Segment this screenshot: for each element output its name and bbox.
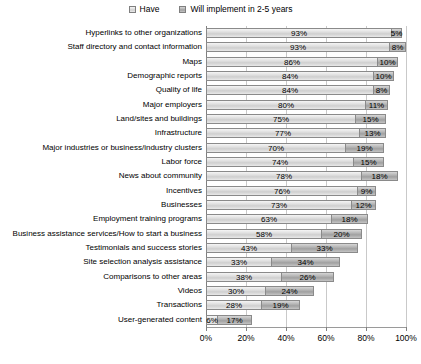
will-implement-value-label: 20% [333, 229, 349, 238]
chart-row: Transactions28%19% [0, 298, 421, 312]
category-label: Business assistance services/How to star… [0, 229, 206, 239]
will-implement-bar-segment: 15% [354, 157, 384, 167]
legend-label-have: Have [140, 4, 160, 14]
have-bar-segment: 84% [206, 85, 374, 95]
category-label: Major industries or business/industry cl… [0, 143, 206, 153]
have-value-label: 30% [228, 287, 244, 296]
bar-rows: Hyperlinks to other organizations93%5%St… [0, 26, 421, 327]
will-implement-value-label: 12% [355, 201, 371, 210]
x-axis-tick-label: 60% [317, 333, 334, 343]
x-axis-tick-label: 100% [395, 333, 417, 343]
chart-row: Quality of life84%8% [0, 83, 421, 97]
will-implement-bar-segment: 9% [358, 186, 376, 196]
have-value-label: 80% [278, 100, 294, 109]
bar-track: 6%17% [206, 315, 406, 325]
axis-tick [406, 327, 407, 331]
bar-track: 84%10% [206, 71, 406, 81]
have-value-label: 28% [226, 301, 242, 310]
chart-row: Major employers80%11% [0, 98, 421, 112]
have-bar-segment: 38% [206, 272, 282, 282]
stacked-bar-chart: Have Will implement in 2-5 years Hyperli… [0, 0, 421, 364]
category-label: Incentives [0, 186, 206, 196]
will-implement-swatch-icon [179, 6, 186, 13]
have-bar-segment: 28% [206, 300, 262, 310]
category-label: Land/sites and buildings [0, 114, 206, 124]
have-value-label: 86% [284, 57, 300, 66]
have-bar-segment: 93% [206, 42, 390, 52]
have-value-label: 73% [271, 201, 287, 210]
have-bar-segment: 63% [206, 214, 332, 224]
bar-track: 78%18% [206, 171, 406, 181]
plot-region: Hyperlinks to other organizations93%5%St… [0, 26, 421, 327]
will-implement-bar-segment: 8% [390, 42, 406, 52]
category-label: Labor force [0, 157, 206, 167]
x-axis-tick-label: 80% [357, 333, 374, 343]
have-value-label: 84% [282, 86, 298, 95]
will-implement-bar-segment: 17% [218, 315, 252, 325]
bar-track: 30%24% [206, 286, 406, 296]
have-value-label: 77% [275, 129, 291, 138]
axis-tick [246, 327, 247, 331]
chart-row: Demographic reports84%10% [0, 69, 421, 83]
will-implement-bar-segment: 34% [272, 257, 340, 267]
category-label: Employment training programs [0, 214, 206, 224]
will-implement-value-label: 11% [369, 100, 384, 109]
chart-row: Employment training programs63%18% [0, 212, 421, 226]
will-implement-value-label: 8% [376, 86, 388, 95]
will-implement-value-label: 18% [371, 172, 387, 181]
have-value-label: 63% [261, 215, 277, 224]
have-bar-segment: 80% [206, 100, 366, 110]
will-implement-value-label: 15% [362, 115, 378, 124]
will-implement-value-label: 18% [341, 215, 357, 224]
bar-track: 58%20% [206, 229, 406, 239]
chart-legend: Have Will implement in 2-5 years [0, 4, 421, 14]
have-swatch-icon [129, 6, 136, 13]
will-implement-bar-segment: 15% [356, 114, 386, 124]
will-implement-value-label: 9% [361, 186, 373, 195]
have-value-label: 84% [282, 72, 298, 81]
chart-row: Comparisons to other areas38%26% [0, 270, 421, 284]
x-axis-labels: 0%20%40%60%80%100% [206, 333, 407, 345]
x-axis-tick-label: 40% [277, 333, 294, 343]
bar-track: 84%8% [206, 85, 406, 95]
chart-row: Maps86%10% [0, 55, 421, 69]
category-label: Testimonials and success stories [0, 243, 206, 253]
have-bar-segment: 77% [206, 128, 360, 138]
category-label: Maps [0, 57, 206, 67]
bar-track: 28%19% [206, 300, 406, 310]
have-value-label: 70% [268, 143, 284, 152]
have-value-label: 6% [206, 315, 218, 324]
chart-row: Testimonials and success stories43%33% [0, 241, 421, 255]
will-implement-value-label: 5% [391, 29, 403, 38]
will-implement-bar-segment: 11% [366, 100, 388, 110]
category-label: Infrastructure [0, 128, 206, 138]
category-label: Staff directory and contact information [0, 42, 206, 52]
bar-track: 77%13% [206, 128, 406, 138]
chart-row: Staff directory and contact information9… [0, 40, 421, 54]
category-label: Quality of life [0, 85, 206, 95]
have-bar-segment: 93% [206, 28, 392, 38]
will-implement-bar-segment: 24% [266, 286, 314, 296]
category-label: Demographic reports [0, 71, 206, 81]
have-value-label: 43% [241, 244, 257, 253]
bar-track: 73%12% [206, 200, 406, 210]
bar-track: 33%34% [206, 257, 406, 267]
will-implement-bar-segment: 12% [352, 200, 376, 210]
will-implement-bar-segment: 19% [346, 143, 384, 153]
axis-tick [286, 327, 287, 331]
axis-tick [326, 327, 327, 331]
bar-track: 93%5% [206, 28, 406, 38]
chart-row: News about community78%18% [0, 169, 421, 183]
chart-row: Labor force74%15% [0, 155, 421, 169]
chart-row: Land/sites and buildings75%15% [0, 112, 421, 126]
chart-row: Business assistance services/How to star… [0, 227, 421, 241]
chart-row: Infrastructure77%13% [0, 126, 421, 140]
axis-tick [206, 327, 207, 331]
have-bar-segment: 75% [206, 114, 356, 124]
chart-row: Hyperlinks to other organizations93%5% [0, 26, 421, 40]
chart-row: Businesses73%12% [0, 198, 421, 212]
have-bar-segment: 6% [206, 315, 218, 325]
will-implement-value-label: 26% [299, 272, 315, 281]
have-bar-segment: 33% [206, 257, 272, 267]
will-implement-bar-segment: 33% [292, 243, 358, 253]
